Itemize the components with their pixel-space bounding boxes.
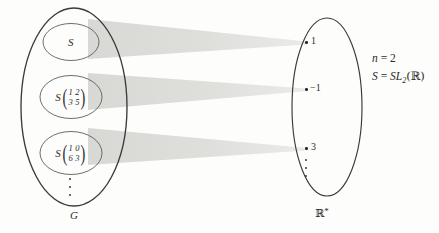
matrix-cell-a22: 5: [75, 98, 79, 108]
matrix-cell-b22: 3: [75, 154, 79, 164]
coset-prefix-S: S: [68, 37, 74, 48]
mapping-band-2: [88, 73, 307, 110]
right-set-outline: [292, 18, 362, 196]
element-bullet-1: [305, 41, 308, 44]
matrix-cell-b21: 6: [69, 154, 73, 164]
annotation-S-equals: =: [381, 70, 388, 82]
matrix-paren-right-A: ): [80, 87, 85, 108]
coset-matrix-A: 1 2 3 5: [69, 88, 80, 108]
mapping-band-3: [88, 128, 307, 165]
matrix-paren-left-B: (: [63, 143, 68, 164]
annotation-SL-argument: (ℝ): [406, 69, 425, 83]
annotation-n-value: 2: [390, 52, 396, 64]
coset-label-B: S ( 1 0 6 3 ): [44, 143, 98, 164]
coset-label-A: S ( 1 2 3 5 ): [44, 87, 98, 108]
matrix-paren-left-A: (: [63, 87, 68, 108]
mapping-bands: [88, 19, 307, 165]
element-value-neg1: −1: [310, 83, 321, 93]
annotation-line-n: n = 2: [372, 52, 396, 64]
mapping-band-1: [88, 19, 307, 59]
annotation-SL-name: SL: [390, 70, 402, 82]
element-value-3: 3: [311, 142, 316, 152]
element-bullet-neg1: [305, 88, 308, 91]
right-set-label: ℝ*: [315, 207, 329, 219]
element-value-1: 1: [311, 36, 316, 46]
left-set-label: G: [70, 210, 78, 221]
matrix-cell-a21: 3: [69, 98, 73, 108]
coset-prefix-B: S: [55, 148, 61, 159]
coset-mapping-figure: S S ( 1 2 3 5 ) S ( 1 0 6 3 ) G 1 −1 3: [0, 0, 439, 233]
right-set-label-symbol: ℝ: [315, 207, 324, 220]
matrix-paren-right-B: ): [80, 143, 85, 164]
annotation-n-symbol: n: [372, 52, 378, 64]
coset-prefix-A: S: [55, 92, 61, 103]
annotation-n-equals: =: [381, 52, 388, 64]
annotation-S-symbol: S: [372, 70, 378, 82]
coset-label-S: S: [47, 35, 95, 50]
right-set-ellipsis: [305, 159, 307, 177]
annotation-line-S: S = SL2(ℝ): [372, 69, 425, 85]
left-set-ellipsis: [69, 178, 71, 196]
element-bullet-3: [305, 147, 308, 150]
right-set-label-star: *: [324, 206, 329, 216]
coset-matrix-B: 1 0 6 3: [69, 144, 80, 164]
